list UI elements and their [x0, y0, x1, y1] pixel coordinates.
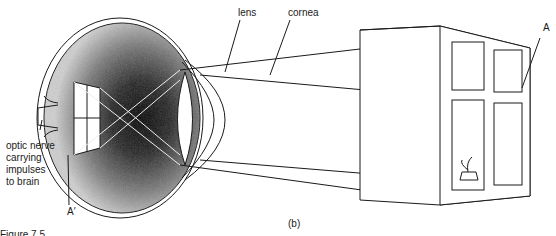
optic-nerve-label-1: optic nerve [6, 140, 55, 152]
figure-caption-fragment: Figure 7.5 [0, 229, 45, 236]
optic-nerve-label-4: to brain [6, 176, 39, 188]
cornea-label: cornea [288, 7, 319, 19]
eye-diagram [0, 0, 556, 236]
panel-label: (b) [288, 218, 300, 230]
image-point-label: A′ [67, 206, 76, 218]
optic-nerve-label-3: impulses [6, 164, 45, 176]
object-point-label: A [543, 22, 550, 34]
window [360, 26, 530, 205]
lens-label: lens [238, 7, 256, 19]
optic-nerve-label-2: carrying [6, 152, 42, 164]
